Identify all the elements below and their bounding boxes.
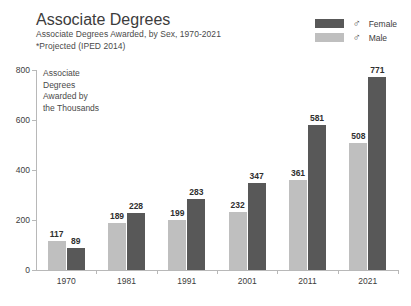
y-axis-tick-label: 200 (16, 215, 30, 225)
bar-male-2001: 232 (229, 212, 247, 270)
bar-value-label: 89 (71, 236, 80, 246)
legend-swatch-female (315, 19, 344, 28)
bar-male-1981: 189 (108, 223, 126, 270)
bar-value-label: 232 (231, 200, 245, 210)
y-axis-tick (32, 270, 36, 271)
chart-note: *Projected (IPED 2014) (36, 41, 266, 53)
bar-value-label: 347 (250, 171, 264, 181)
x-axis-tick (217, 270, 218, 274)
x-axis-tick (157, 270, 158, 274)
x-axis-label-2001: 2001 (238, 276, 257, 286)
chart-header: Associate Degrees Associate Degrees Awar… (36, 11, 266, 52)
bar-female-2011: 581 (308, 125, 326, 270)
gender-symbol-icon: ♂ (352, 32, 362, 43)
y-axis-tick-label: 600 (16, 115, 30, 125)
bar-group-1981: 189228 (108, 70, 145, 270)
x-axis-label-1981: 1981 (117, 276, 136, 286)
x-axis-label-2021: 2021 (358, 276, 377, 286)
bar-male-1991: 199 (168, 220, 186, 270)
bar-female-1970: 89 (67, 248, 85, 270)
x-axis-tick (277, 270, 278, 274)
bar-male-2011: 361 (289, 180, 307, 270)
y-axis-tick-label: 0 (25, 265, 30, 275)
bars-layer: 11789189228199283232347361581508771 (36, 70, 398, 270)
bar-female-1991: 283 (187, 199, 205, 270)
x-axis-tick (398, 270, 399, 274)
bar-male-1970: 117 (48, 241, 66, 270)
bar-group-2011: 361581 (289, 70, 326, 270)
bar-female-2001: 347 (248, 183, 266, 270)
bar-female-2021: 771 (368, 77, 386, 270)
x-axis-tick (96, 270, 97, 274)
bar-value-label: 228 (129, 201, 143, 211)
bar-group-2021: 508771 (349, 70, 386, 270)
x-axis-label-2011: 2011 (298, 276, 316, 286)
x-axis-label-1991: 1991 (177, 276, 196, 286)
bar-group-1991: 199283 (168, 70, 205, 270)
bar-value-label: 199 (170, 208, 184, 218)
y-axis-tick-label: 400 (16, 165, 30, 175)
legend-item-female: ♂Female (315, 18, 397, 29)
y-axis-tick-label: 800 (16, 65, 30, 75)
legend-label: Female (369, 19, 397, 29)
bar-value-label: 117 (50, 229, 64, 239)
x-axis-tick (338, 270, 339, 274)
bar-value-label: 283 (189, 187, 203, 197)
legend-swatch-male (315, 33, 344, 42)
plot-area: 8006004002000 Associate Degrees Awarded … (36, 70, 398, 270)
chart-legend: ♂Female♂Male (315, 18, 397, 43)
gender-symbol-icon: ♂ (352, 18, 362, 29)
bar-value-label: 361 (291, 168, 305, 178)
bar-value-label: 771 (370, 65, 384, 75)
bar-female-1981: 228 (127, 213, 145, 270)
legend-item-male: ♂Male (315, 32, 397, 43)
x-axis-labels: 197019811991200120112021 (36, 276, 398, 290)
chart-subtitle: Associate Degrees Awarded, by Sex, 1970-… (36, 29, 266, 41)
bar-value-label: 189 (110, 211, 124, 221)
legend-label: Male (369, 33, 387, 43)
bar-group-1970: 11789 (48, 70, 85, 270)
bar-value-label: 508 (351, 131, 365, 141)
x-axis-label-1970: 1970 (57, 276, 76, 286)
bar-value-label: 581 (310, 113, 324, 123)
bar-male-2021: 508 (349, 143, 367, 270)
bar-group-2001: 232347 (229, 70, 266, 270)
page-title: Associate Degrees (36, 11, 266, 29)
